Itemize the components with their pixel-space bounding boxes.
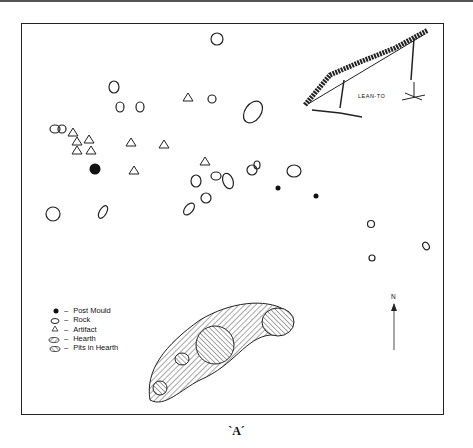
legend-label: Hearth (73, 334, 96, 343)
legend-item-post-mould: –Post Mould (46, 306, 118, 315)
legend-label: Artifact (73, 325, 96, 334)
legend-label: Post Mould (73, 306, 111, 315)
north-arrow (391, 303, 397, 350)
north-label: N (391, 293, 396, 300)
legend-item-pits: –Pits in Hearth (46, 343, 118, 352)
rocks (46, 33, 431, 261)
legend-item-artifact: –Artifact (46, 325, 118, 334)
lean-to-drawing (305, 30, 428, 117)
legend: –Post Mould –Rock –Artifact –Hearth –Pit… (46, 306, 118, 352)
legend-item-hearth: –Hearth (46, 334, 118, 343)
artifacts (68, 93, 210, 174)
site-map (0, 0, 473, 448)
legend-label: Pits in Hearth (73, 343, 118, 352)
hearth (149, 303, 294, 402)
legend-label: Rock (73, 315, 90, 324)
lean-to-label: LEAN-TO (358, 93, 385, 99)
figure-caption: `A´ (0, 424, 473, 439)
legend-item-rock: –Rock (46, 315, 118, 324)
